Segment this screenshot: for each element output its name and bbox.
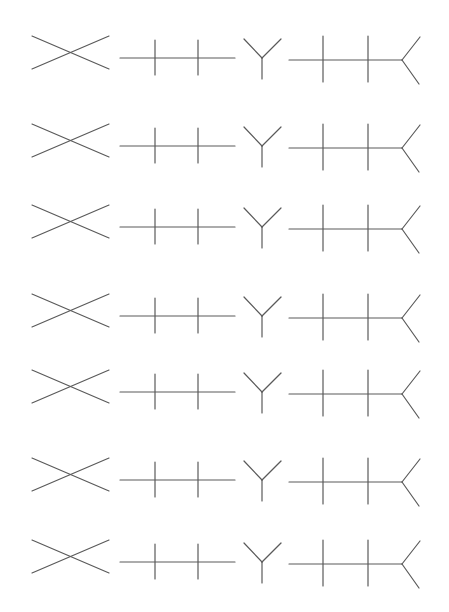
- figure-row-6: [32, 458, 420, 506]
- ticked-line: [120, 462, 235, 497]
- line-segment: [402, 148, 419, 172]
- x-figure: [32, 205, 109, 238]
- forked-ticked-line: [289, 294, 420, 342]
- figure-row-5: [32, 370, 420, 418]
- line-segment: [262, 39, 281, 58]
- forked-ticked-line: [289, 205, 420, 253]
- line-segment: [262, 208, 281, 227]
- line-segment: [244, 127, 262, 146]
- figure-row-7: [32, 540, 420, 588]
- y-figure: [244, 127, 281, 167]
- ticked-line: [120, 209, 235, 244]
- line-segment: [262, 461, 281, 480]
- line-segment: [402, 295, 420, 318]
- figure-row-3: [32, 205, 420, 253]
- line-segment: [402, 229, 419, 253]
- x-figure: [32, 294, 109, 327]
- line-segment: [244, 208, 262, 227]
- forked-ticked-line: [289, 458, 420, 506]
- forked-ticked-line: [289, 36, 420, 84]
- line-segment: [402, 125, 420, 148]
- figure-row-4: [32, 294, 420, 342]
- figure-row-2: [32, 124, 420, 172]
- line-segment: [262, 297, 281, 316]
- x-figure: [32, 124, 109, 157]
- y-figure: [244, 39, 281, 79]
- line-segment: [402, 459, 420, 482]
- line-segment: [244, 543, 262, 562]
- line-segment: [244, 297, 262, 316]
- line-segment: [402, 564, 419, 588]
- line-segment: [262, 543, 281, 562]
- y-figure: [244, 297, 281, 337]
- forked-ticked-line: [289, 540, 420, 588]
- line-segment: [402, 206, 420, 229]
- line-segment: [244, 461, 262, 480]
- ticked-line: [120, 544, 235, 579]
- ticked-line: [120, 374, 235, 409]
- forked-ticked-line: [289, 370, 420, 418]
- line-segment: [244, 39, 262, 58]
- line-segment: [402, 482, 419, 506]
- line-segment: [244, 373, 262, 392]
- x-figure: [32, 540, 109, 573]
- line-segment: [262, 373, 281, 392]
- y-figure: [244, 208, 281, 248]
- x-figure: [32, 36, 109, 69]
- y-figure: [244, 373, 281, 413]
- figure-svg: [0, 0, 449, 612]
- illusion-figure-canvas: [0, 0, 449, 612]
- line-segment: [402, 541, 420, 564]
- x-figure: [32, 370, 109, 403]
- line-segment: [402, 37, 420, 60]
- y-figure: [244, 543, 281, 583]
- line-segment: [402, 371, 420, 394]
- ticked-line: [120, 128, 235, 163]
- line-segment: [402, 394, 419, 418]
- ticked-line: [120, 298, 235, 333]
- ticked-line: [120, 40, 235, 75]
- forked-ticked-line: [289, 124, 420, 172]
- line-segment: [262, 127, 281, 146]
- x-figure: [32, 458, 109, 491]
- y-figure: [244, 461, 281, 501]
- line-segment: [402, 318, 419, 342]
- figure-row-1: [32, 36, 420, 84]
- line-segment: [402, 60, 419, 84]
